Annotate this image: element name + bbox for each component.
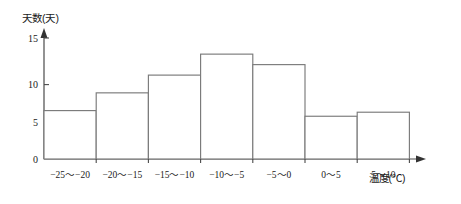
y-tick-label-10: 10 <box>28 79 38 90</box>
histogram-bar <box>96 93 148 159</box>
x-category-label: −5～0 <box>266 170 291 180</box>
x-category-label: −25～−20 <box>50 170 90 180</box>
x-axis-category-ticks <box>96 159 409 163</box>
histogram-chart: 天数(天) 15 10 5 0 −25～−20−20～−15−15～−10−10… <box>0 0 461 204</box>
y-tick-label-15: 15 <box>28 33 38 44</box>
histogram-bar <box>253 65 305 159</box>
histogram-bar <box>148 75 200 159</box>
y-axis-ticks <box>44 38 49 122</box>
y-axis-arrow-icon <box>41 28 48 38</box>
y-tick-label-5: 5 <box>33 117 38 128</box>
x-axis-category-labels: −25～−20−20～−15−15～−10−10～−5−5～00～55～10 <box>50 170 395 180</box>
x-category-label: −15～−10 <box>155 170 195 180</box>
y-axis-title: 天数(天) <box>22 12 59 24</box>
chart-canvas: 天数(天) 15 10 5 0 −25～−20−20～−15−15～−10−10… <box>0 0 461 204</box>
y-tick-label-0: 0 <box>33 154 38 165</box>
histogram-bar <box>44 111 96 159</box>
x-category-label: −20～−15 <box>102 170 142 180</box>
x-axis-title: 温度(℃) <box>369 172 406 184</box>
y-axis-tick-labels: 15 10 5 0 <box>28 33 38 166</box>
x-category-label: −10～−5 <box>209 170 244 180</box>
x-axis-arrow-icon <box>416 156 426 163</box>
histogram-bar <box>357 112 409 159</box>
histogram-bar <box>305 116 357 159</box>
bars-group <box>44 54 409 159</box>
histogram-bar <box>201 54 253 159</box>
x-category-label: 0～5 <box>321 170 341 180</box>
